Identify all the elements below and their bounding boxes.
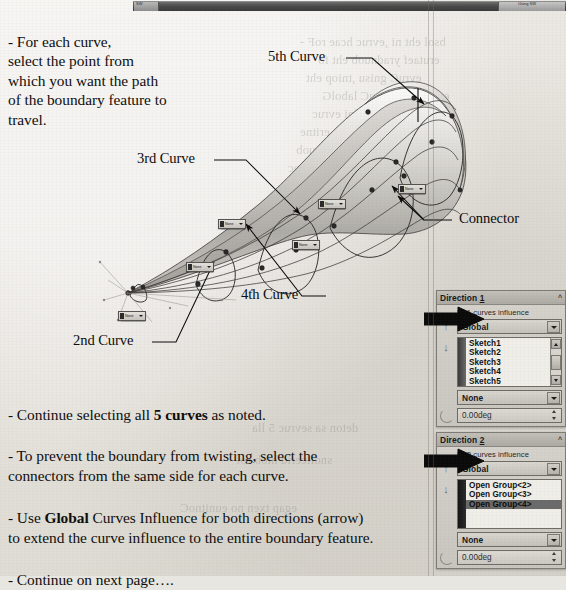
direction-2-title: Direction 2 xyxy=(440,435,484,445)
direction-2-body: Dir2 curves influence Global ↑ ↓ Open Gr… xyxy=(437,447,565,568)
direction-2-angle-field[interactable]: 0.00deg xyxy=(457,550,562,565)
chevron-down-icon[interactable] xyxy=(339,203,343,205)
callout-value: None xyxy=(125,314,139,318)
direction-1-reorder-controls[interactable]: ↑ ↓ xyxy=(440,321,452,352)
direction-1-angle-field[interactable]: 0.00deg xyxy=(457,408,562,423)
instruction-bullet-2: - To prevent the boundary from twisting,… xyxy=(8,427,428,485)
list-item[interactable]: Sketch4 xyxy=(466,367,550,376)
model-callout-dropdown[interactable]: None xyxy=(186,262,214,272)
page-gutter-rule xyxy=(428,0,429,576)
bullet-3-before: - Use xyxy=(8,509,44,526)
model-callout-dropdown[interactable]: None xyxy=(292,240,320,250)
showthrough-line: evruC gnisu ,tniop eht xyxy=(306,70,422,87)
direction-2-influence-value: Global xyxy=(458,464,489,474)
direction-2-collapse-icon[interactable]: ^ xyxy=(558,436,562,443)
direction-2-tangency-value: None xyxy=(458,535,483,545)
callout-label-connector: Connector xyxy=(459,210,519,227)
direction-1-title: Direction 1 xyxy=(440,293,484,303)
chevron-down-icon[interactable] xyxy=(547,392,560,404)
callout-swatch-icon xyxy=(320,201,324,207)
arrow-down-icon[interactable]: ↓ xyxy=(443,484,449,494)
direction-1-influence-label: Dir1 curves influence xyxy=(457,308,562,317)
callout-swatch-icon xyxy=(294,242,298,248)
arrow-up-icon[interactable]: ↑ xyxy=(443,463,449,473)
scroll-up-icon[interactable] xyxy=(551,339,561,349)
bullet-1-before: - Continue selecting all xyxy=(8,406,154,423)
list-item[interactable]: Sketch1 xyxy=(466,339,550,348)
direction-1-body: Dir1 curves influence Global ↑ ↓ Sketch1… xyxy=(437,305,565,426)
callout-value: None xyxy=(225,222,239,226)
direction-2-curve-list[interactable]: Open Group<2>Open Group<3>Open Group<4> xyxy=(457,479,562,529)
instruction-bullet-4: - Continue on next page…. xyxy=(8,551,308,590)
direction-2-list-items: Open Group<2>Open Group<3>Open Group<4> xyxy=(466,480,561,528)
direction-2-list-gutter xyxy=(458,480,466,528)
chevron-down-icon[interactable] xyxy=(419,188,423,190)
showthrough-line: evruc hcae rof xyxy=(330,178,404,195)
chevron-down-icon[interactable] xyxy=(547,534,560,546)
list-item[interactable]: Open Group<2> xyxy=(466,481,561,490)
bullet-1-bold: 5 curves xyxy=(154,406,208,423)
direction-2-tangency-select[interactable]: None xyxy=(457,532,562,547)
chevron-down-icon[interactable] xyxy=(547,321,560,333)
showthrough-line: erutaef yradnuob eritne xyxy=(300,124,421,141)
showthrough-line: eht ot ecneulfni evruc xyxy=(312,106,425,123)
list-item[interactable]: Open Group<3> xyxy=(466,490,561,499)
title-bar-left-label: SW xyxy=(136,1,142,6)
chevron-down-icon[interactable] xyxy=(139,315,143,317)
spinner-buttons[interactable] xyxy=(552,410,560,420)
callout-label-curve-5: 5th Curve xyxy=(268,48,325,65)
model-callout-dropdown[interactable]: None xyxy=(318,199,346,209)
callout-swatch-icon xyxy=(188,264,192,270)
model-callout-dropdown[interactable]: None xyxy=(218,219,246,229)
bullet-2-text: - To prevent the boundary from twisting,… xyxy=(8,447,317,483)
spinner-buttons[interactable] xyxy=(552,552,560,562)
direction-2-reorder-controls[interactable]: ↑ ↓ xyxy=(440,463,452,494)
direction-1-collapse-icon[interactable]: ^ xyxy=(558,294,562,301)
draft-angle-icon xyxy=(440,409,454,423)
direction-1-curve-list[interactable]: Sketch1Sketch2Sketch3Sketch4Sketch5 xyxy=(457,337,562,387)
bullet-3-bold: Global xyxy=(44,509,88,526)
direction-1-header[interactable]: Direction 1 ^ xyxy=(437,291,565,305)
direction-2-angle-value: 0.00deg xyxy=(458,553,492,562)
property-manager-direction-1: Direction 1 ^ Dir1 curves influence Glob… xyxy=(436,290,566,427)
scrollbar-thumb[interactable] xyxy=(551,355,561,370)
direction-2-influence-select[interactable]: Global xyxy=(457,461,562,476)
draft-angle-icon xyxy=(440,551,454,565)
arrow-down-icon[interactable]: ↓ xyxy=(443,342,449,352)
direction-1-influence-value: Global xyxy=(458,322,489,332)
callout-label-curve-4: 4th Curve xyxy=(241,286,298,303)
direction-1-list-scrollbar[interactable] xyxy=(550,338,561,386)
arrow-up-icon[interactable]: ↑ xyxy=(443,321,449,331)
model-callout-dropdown[interactable]: None xyxy=(398,184,426,194)
direction-1-tangency-value: None xyxy=(458,393,483,403)
callout-label-curve-3: 3rd Curve xyxy=(137,150,195,167)
callout-swatch-icon xyxy=(400,186,404,192)
application-title-bar: SW Using SW xyxy=(133,1,566,11)
model-callout-dropdown[interactable]: None xyxy=(118,311,146,321)
list-item[interactable]: Open Group<4> xyxy=(466,500,561,509)
list-item[interactable]: Sketch2 xyxy=(466,348,550,357)
direction-1-tangency-select[interactable]: None xyxy=(457,390,562,405)
chevron-down-icon[interactable] xyxy=(547,463,560,475)
chevron-down-icon[interactable] xyxy=(313,244,317,246)
list-item[interactable]: Sketch3 xyxy=(466,358,550,367)
bullet-4-text: - Continue on next page…. xyxy=(8,571,174,588)
callout-swatch-icon xyxy=(120,313,124,319)
scroll-down-icon[interactable] xyxy=(551,375,561,385)
showthrough-line: ecneulfnI sevruC labolG xyxy=(322,88,449,105)
title-bar-left-block: SW xyxy=(134,2,159,11)
callout-value: None xyxy=(405,187,419,191)
chevron-down-icon[interactable] xyxy=(207,266,211,268)
direction-1-influence-select[interactable]: Global xyxy=(457,319,562,334)
callout-swatch-icon xyxy=(220,221,224,227)
showthrough-line: gnitsiwt morf yradnuob xyxy=(296,142,418,159)
title-bar-right-label: Using SW xyxy=(518,1,536,6)
callout-value: None xyxy=(193,265,207,269)
callout-value: None xyxy=(299,243,313,247)
chevron-down-icon[interactable] xyxy=(239,223,243,225)
property-manager-direction-2: Direction 2 ^ Dir2 curves influence Glob… xyxy=(436,432,566,569)
direction-2-header[interactable]: Direction 2 ^ xyxy=(437,433,565,447)
direction-1-list-items: Sketch1Sketch2Sketch3Sketch4Sketch5 xyxy=(466,338,550,386)
list-item[interactable]: Sketch5 xyxy=(466,377,550,386)
